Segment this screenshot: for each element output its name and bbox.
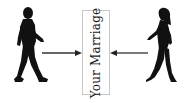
your-marriage-box: Your Marriage (82, 10, 110, 95)
arrow-right-icon (41, 49, 83, 57)
box-label: Your Marriage (89, 7, 103, 98)
walking-woman-icon (145, 7, 181, 85)
walking-man-icon (12, 7, 48, 85)
arrow-left-icon (110, 49, 150, 57)
marriage-diagram: Your Marriage (0, 0, 189, 103)
